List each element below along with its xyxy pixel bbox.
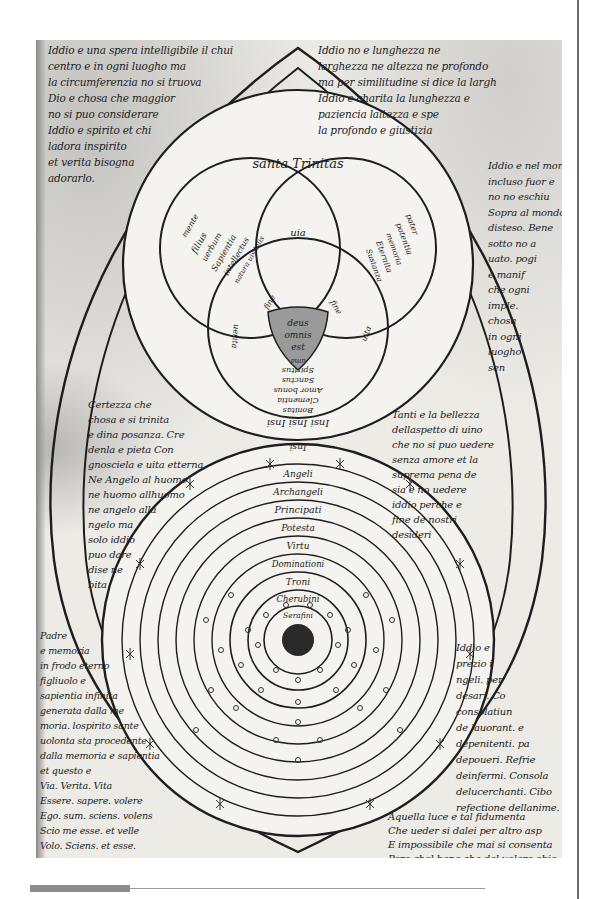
center-label-2: omnis: [284, 330, 312, 340]
manuscript-scan: santa Trinitas uia deus omnis est ama fi…: [36, 40, 562, 858]
svg-text:Sanctus: Sanctus: [282, 376, 314, 385]
note-top-right: Iddio no e lunghezza ne larghezza ne alt…: [318, 42, 496, 138]
svg-text:Cherubini: Cherubini: [277, 594, 320, 604]
svg-text:Spiritus: Spiritus: [282, 366, 314, 375]
bottom-point-label: ama: [291, 357, 306, 365]
note-right-middle: Tanti e la bellezza dellaspetto di uino …: [392, 407, 494, 542]
svg-text:Troni: Troni: [286, 577, 311, 587]
footer-bar: [30, 885, 130, 892]
svg-text:Archangeli: Archangeli: [272, 487, 323, 497]
top-lens-label: uia: [290, 227, 306, 238]
center-label-1: deus: [287, 318, 309, 328]
note-left-middle: Certezza che chosa e si trinita e dina p…: [88, 397, 203, 592]
note-top-left: Iddio e una spera intelligibile il chui …: [48, 42, 233, 186]
svg-text:Dominationi: Dominationi: [271, 559, 325, 569]
svg-text:Principati: Principati: [273, 504, 321, 515]
center-label-3: est: [291, 342, 305, 352]
svg-text:Amor bonus: Amor bonus: [274, 386, 324, 395]
svg-text:Virtu: Virtu: [287, 541, 310, 551]
svg-text:Bonitas: Bonitas: [283, 406, 315, 415]
svg-text:Potesta: Potesta: [280, 523, 315, 533]
footer-rule: [130, 888, 485, 889]
trinity-title: santa Trinitas: [252, 156, 343, 171]
svg-text:Angeli: Angeli: [282, 469, 312, 479]
note-right-upper: Iddio e nel mondo incluso fuor e no no e…: [488, 158, 562, 375]
svg-text:Insi Insi Insi: Insi Insi Insi: [267, 418, 331, 429]
svg-text:Serafini: Serafini: [283, 611, 313, 620]
page-frame-rule: [577, 0, 579, 899]
note-bottom-left: Padre e memoria in frodo eterno figliuol…: [40, 628, 160, 853]
svg-text:Insi: Insi: [289, 442, 307, 452]
svg-text:Clementia: Clementia: [277, 396, 319, 405]
note-right-lower: Iddio e prezio i ngeli. per desari. Co c…: [456, 640, 559, 816]
center-dark-disk: [282, 624, 314, 656]
note-bottom-right: Aquella luce e tal fidumenta Che ueder s…: [388, 810, 556, 858]
